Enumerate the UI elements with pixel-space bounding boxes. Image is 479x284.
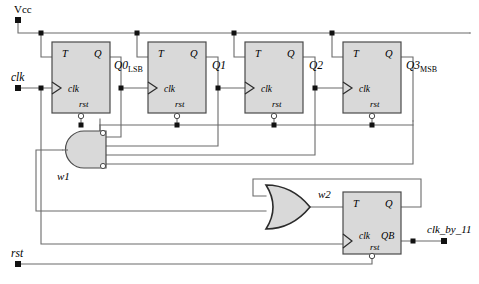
junction-vcc-ff2	[232, 31, 237, 36]
wire-vcc-to-ff0-t	[41, 33, 52, 57]
and-gate-bubble-bottom	[100, 163, 105, 168]
flipflop-ff4: T Q clk QB rst	[343, 192, 401, 259]
junction-clk-by-11	[411, 239, 416, 244]
label-w2: w2	[318, 188, 331, 200]
flipflop-ff1: T Q clk rst	[148, 42, 206, 119]
junction-q2-tap	[313, 86, 318, 91]
and-gate-bubble-top	[100, 130, 105, 135]
ff1-clk-label: clk	[164, 84, 176, 94]
wire-vcc-to-ff1-t	[137, 33, 148, 57]
ff4-clk-label: clk	[359, 231, 371, 241]
ff4-rst-bubble	[369, 253, 374, 258]
wire-rst-bottom-to-ff4	[18, 258, 372, 264]
ff0-rst-label: rst	[79, 99, 89, 109]
label-q0: Q0LSB	[114, 59, 143, 74]
junction-rst-ff0	[79, 123, 84, 128]
and-gate	[62, 130, 106, 168]
label-q1: Q1	[212, 59, 226, 71]
junction-rst-ff1	[175, 123, 180, 128]
ff3-rst-label: rst	[370, 99, 380, 109]
ff2-clk-label: clk	[261, 84, 273, 94]
or-gate-body	[266, 185, 310, 229]
terminal-vcc[interactable]	[15, 17, 21, 23]
ff3-rst-bubble	[369, 113, 374, 118]
junction-clk-branch	[39, 86, 44, 91]
ff0-rst-bubble	[78, 113, 83, 118]
and-gate-body	[66, 131, 107, 168]
ff3-clk-label: clk	[359, 84, 371, 94]
ff1-q-label: Q	[190, 48, 198, 59]
label-clk: clk	[11, 71, 25, 83]
ff4-rst-label: rst	[370, 242, 380, 252]
junction-vcc-ff3	[330, 31, 335, 36]
junction-vcc-ff1	[135, 31, 140, 36]
ff2-rst-label: rst	[272, 99, 282, 109]
wire-vcc-bus	[18, 20, 470, 33]
ff2-q-label: Q	[287, 48, 295, 59]
or-gate	[266, 185, 310, 229]
schematic-svg: T Q clk rst T Q clk rst T Q clk rst	[0, 0, 479, 284]
ff0-q-label: Q	[94, 48, 102, 59]
ff3-q-label: Q	[385, 48, 393, 59]
label-q2: Q2	[309, 59, 323, 71]
circuit-diagram-canvas: T Q clk rst T Q clk rst T Q clk rst	[0, 0, 479, 284]
ff2-rst-bubble	[271, 113, 276, 118]
wire-vcc-to-ff3-t	[332, 33, 343, 57]
label-q3: Q3MSB	[406, 59, 437, 74]
wire-q3-to-and-in3	[106, 121, 413, 164]
ff4-qb-label: QB	[381, 230, 394, 241]
label-vcc: Vcc	[14, 3, 32, 15]
ff1-rst-label: rst	[175, 99, 185, 109]
ff1-rst-bubble	[174, 113, 179, 118]
wire-vcc-to-ff2-t	[234, 33, 245, 57]
terminal-clk-by-11[interactable]	[441, 238, 447, 244]
terminal-clk[interactable]	[15, 85, 21, 91]
flipflop-ff2: T Q clk rst	[245, 42, 303, 119]
junction-rst-ff2	[272, 123, 277, 128]
label-rst: rst	[11, 247, 24, 259]
junction-q0-tap	[119, 86, 124, 91]
junction-rst-ff3	[370, 123, 375, 128]
terminal-rst[interactable]	[15, 261, 21, 267]
flipflop-ff3: T Q clk rst	[343, 42, 401, 119]
ff4-q-label: Q	[385, 198, 393, 209]
junction-vcc-ff0	[39, 31, 44, 36]
ff0-clk-label: clk	[68, 84, 80, 94]
flipflop-ff0: T Q clk rst	[52, 42, 110, 119]
junction-q1-tap	[216, 86, 221, 91]
label-clk-by-11: clk_by_11	[427, 223, 471, 235]
label-w1: w1	[57, 170, 70, 182]
